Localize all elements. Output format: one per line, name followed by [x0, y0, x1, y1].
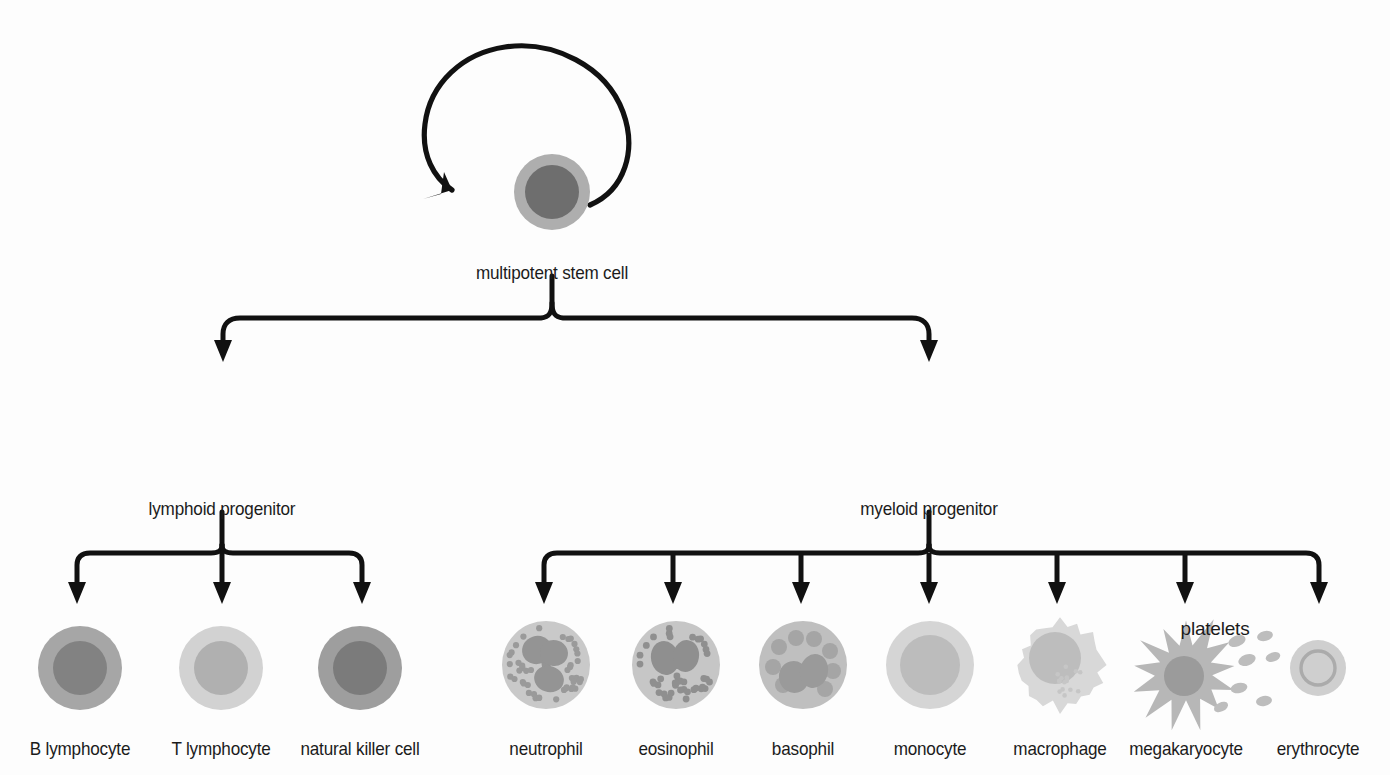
stem-to-progenitors-connector: [214, 276, 938, 362]
neutrophil: [492, 611, 600, 719]
megakaryocyte-label: megakaryocyte: [1129, 738, 1243, 760]
basophil-label: basophil: [772, 738, 834, 760]
natural-killer-cell: [308, 616, 412, 720]
basophil: [749, 611, 857, 719]
macrophage: [1006, 611, 1114, 719]
myeloid-progenitor: [873, 372, 985, 484]
lymphoid-progenitor-label: lymphoid progenitor: [149, 498, 296, 520]
platelets-label: platelets: [1181, 618, 1250, 640]
eosinophil: [622, 611, 730, 719]
multipotent-stem-cell: [504, 144, 600, 240]
b-lymphocyte: [28, 616, 132, 720]
macrophage-label: macrophage: [1013, 738, 1106, 760]
eosinophil-label: eosinophil: [638, 738, 713, 760]
myeloid-progenitor-label: myeloid progenitor: [860, 498, 997, 520]
lymphoid-branch-connector: [68, 512, 371, 604]
monocyte-label: monocyte: [894, 738, 967, 760]
natural-killer-cell-label: natural killer cell: [300, 738, 419, 760]
t-lymphocyte-label: T lymphocyte: [171, 738, 270, 760]
erythrocyte: [1280, 630, 1356, 706]
diagram-canvas: multipotent stem celllymphoid progenitor…: [0, 0, 1390, 775]
erythrocyte-label: erythrocyte: [1277, 738, 1360, 760]
myeloid-branch-connector: [535, 512, 1328, 604]
multipotent-stem-cell-label: multipotent stem cell: [476, 262, 628, 284]
neutrophil-label: neutrophil: [509, 738, 582, 760]
t-lymphocyte: [169, 616, 273, 720]
lymphoid-progenitor: [168, 374, 276, 482]
monocyte: [876, 611, 984, 719]
b-lymphocyte-label: B lymphocyte: [30, 738, 130, 760]
